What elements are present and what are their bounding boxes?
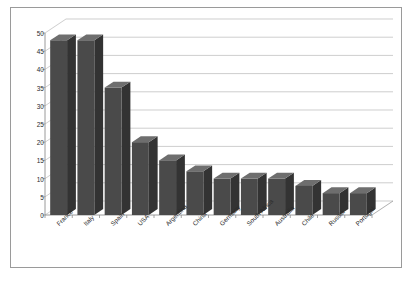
- x-tick-label-south-africa: South Africa: [245, 198, 274, 227]
- x-tick-label-italy: Italy: [82, 214, 95, 227]
- x-tick-label-argentina: Argentina: [164, 203, 188, 227]
- x-tick-label-usa: USA: [136, 213, 150, 227]
- x-tick-label-russia: Russia: [327, 208, 346, 227]
- x-tick-label-chile: Chile: [300, 212, 315, 227]
- x-tick-label-spain: Spain: [109, 210, 126, 227]
- x-tick-label-germany: Germany: [218, 203, 242, 227]
- x-tick-label-australia: Australia: [273, 204, 296, 227]
- chart-plot-stage: 05101520253035404550 FranceItalySpainUSA…: [11, 8, 403, 269]
- x-tick-label-portugal: Portugal: [354, 205, 376, 227]
- x-axis-category-labels: FranceItalySpainUSAArgentinaChinaGermany…: [11, 8, 403, 269]
- x-tick-label-china: China: [191, 210, 208, 227]
- chart-outer-frame: 05101520253035404550 FranceItalySpainUSA…: [10, 7, 402, 268]
- x-tick-label-france: France: [55, 208, 74, 227]
